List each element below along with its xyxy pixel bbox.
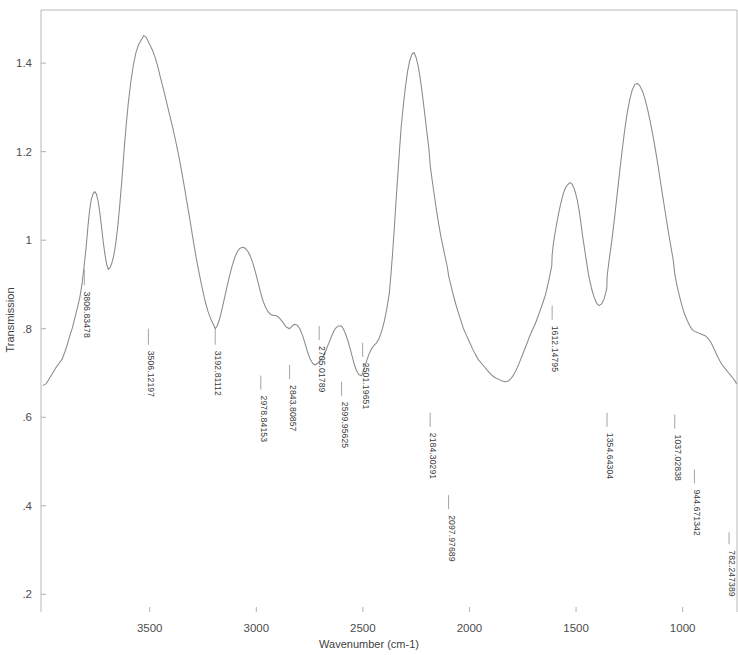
y-tick-label: .4: [22, 500, 32, 512]
peak-label: 1612.14795: [550, 326, 560, 373]
y-tick-label: 1.2: [16, 146, 32, 158]
peak-label: 782.247389: [727, 550, 737, 597]
peak-label: 1354.64304: [605, 433, 615, 480]
peak-label: 944.671342: [692, 489, 702, 536]
peak-annotations: 3806.834783506.121973192.811122978.84153…: [82, 269, 737, 596]
x-axis-ticks: 350030002500200015001000: [137, 607, 696, 634]
y-tick-label: .6: [22, 411, 32, 423]
x-tick-label: 2500: [350, 622, 376, 634]
x-tick-label: 3000: [244, 622, 270, 634]
peak-label: 1037.02838: [673, 435, 683, 482]
plot-border: [41, 10, 737, 612]
plot-frame: [41, 10, 737, 612]
peak-label: 2599.95625: [340, 402, 350, 449]
x-tick-label: 2000: [457, 622, 483, 634]
peak-label: 2184.30291: [428, 433, 438, 480]
y-tick-label: .8: [22, 323, 32, 335]
y-axis-title: Transmission: [4, 288, 16, 353]
spectrum-series: [43, 36, 736, 386]
y-tick-label: .2: [22, 588, 32, 600]
peak-label: 3806.83478: [82, 291, 92, 338]
chart-canvas: .2.4.6.811.21.4 350030002500200015001000…: [0, 0, 738, 655]
peak-label: 2843.80857: [288, 385, 298, 432]
y-tick-label: 1: [26, 234, 32, 246]
peak-label: 3192.81112: [213, 351, 223, 396]
peak-label: 2978.84153: [259, 396, 269, 443]
peak-label: 2097.97689: [447, 515, 457, 562]
ir-spectrum-chart: .2.4.6.811.21.4 350030002500200015001000…: [0, 0, 738, 655]
peak-label: 2705.01789: [317, 346, 327, 393]
x-axis-title: Wavenumber (cm-1): [319, 638, 419, 650]
x-tick-label: 1000: [670, 622, 696, 634]
x-tick-label: 1500: [563, 622, 589, 634]
peak-label: 3506.12197: [146, 351, 156, 398]
spectrum-line: [43, 36, 736, 386]
peak-label: 2501.19651: [361, 363, 371, 410]
x-tick-label: 3500: [137, 622, 163, 634]
y-tick-label: 1.4: [16, 57, 33, 69]
